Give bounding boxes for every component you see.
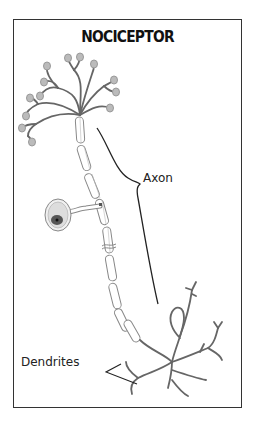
nerve-terminal-bulbs <box>19 53 120 146</box>
free-nerve-endings <box>22 57 116 142</box>
dendrites-label: Dendrites <box>21 355 79 369</box>
dendrites <box>126 282 222 396</box>
axon-label: Axon <box>143 171 173 185</box>
cell-body <box>45 199 102 231</box>
